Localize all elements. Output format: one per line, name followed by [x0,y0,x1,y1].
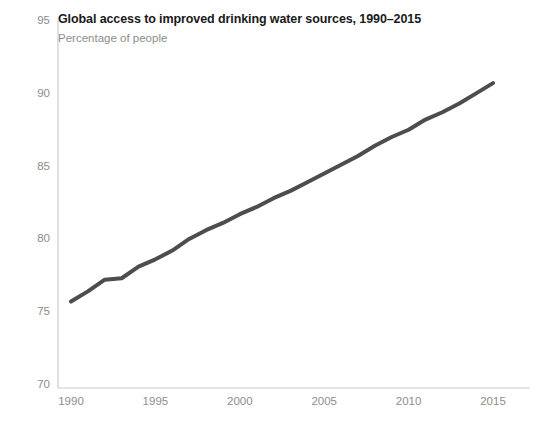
data-series-line [71,83,493,301]
x-tick-label: 1995 [132,395,178,407]
y-tick-label: 75 [20,305,50,317]
y-tick-label: 85 [20,160,50,172]
chart-plot-area [0,0,544,422]
x-tick-label: 2010 [386,395,432,407]
y-tick-label: 90 [20,87,50,99]
y-tick-label: 70 [20,378,50,390]
x-tick-label: 2000 [217,395,263,407]
x-tick-label: 1990 [48,395,94,407]
y-tick-label: 80 [20,232,50,244]
chart-container: Global access to improved drinking water… [0,0,544,422]
x-tick-label: 2005 [301,395,347,407]
x-tick-label: 2015 [470,395,516,407]
y-tick-label: 95 [20,14,50,26]
